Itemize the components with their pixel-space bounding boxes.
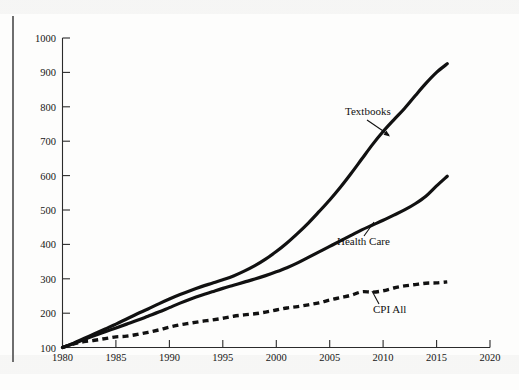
- y-axis-tick-labels: 1000 900 800 700 600 500 400 300 200 100: [35, 33, 56, 354]
- series-label-textbooks: Textbooks: [345, 105, 391, 117]
- series-label-cpi-all: CPI All: [373, 303, 406, 315]
- y-tick-label: 500: [40, 205, 56, 216]
- y-axis-ticks: [63, 38, 71, 348]
- line-chart: 1000 900 800 700 600 500 400 300 200 100…: [0, 0, 519, 390]
- y-tick-label: 600: [40, 171, 56, 182]
- x-tick-label: 1985: [105, 352, 126, 363]
- annotation-cpi-all: CPI All: [372, 291, 406, 315]
- y-tick-label: 400: [40, 239, 56, 250]
- y-tick-label: 1000: [35, 33, 56, 44]
- x-tick-label: 1980: [52, 352, 73, 363]
- x-tick-label: 1995: [212, 352, 233, 363]
- x-axis-ticks: [63, 340, 491, 348]
- annotation-health-care: Health Care: [337, 222, 390, 247]
- x-tick-label: 2020: [480, 352, 501, 363]
- y-tick-label: 800: [40, 102, 56, 113]
- series-label-health-care: Health Care: [337, 235, 390, 247]
- y-tick-label: 700: [40, 136, 56, 147]
- x-tick-label: 2015: [426, 352, 447, 363]
- y-tick-label: 200: [40, 308, 56, 319]
- annotation-textbooks: Textbooks: [345, 105, 391, 137]
- x-axis-tick-labels: 1980 1985 1990 1995 2000 2005 2010 2015 …: [52, 352, 501, 363]
- x-tick-label: 2000: [266, 352, 287, 363]
- x-tick-label: 2005: [319, 352, 340, 363]
- y-tick-label: 300: [40, 274, 56, 285]
- x-tick-label: 2010: [373, 352, 394, 363]
- figure-page: 1000 900 800 700 600 500 400 300 200 100…: [0, 0, 519, 390]
- x-tick-label: 1990: [159, 352, 180, 363]
- y-tick-label: 900: [40, 67, 56, 78]
